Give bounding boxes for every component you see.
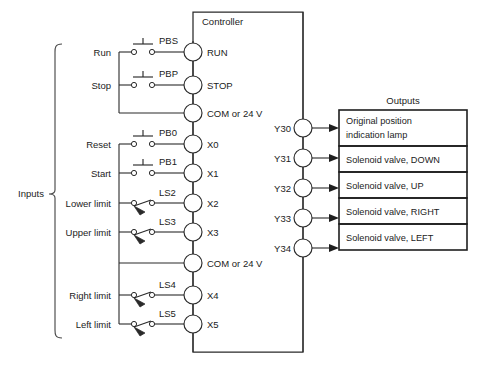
limit-switch-flag-ls3 [134,235,145,244]
input-row-right-limit: Right limit LS4 [69,279,184,307]
arrow-head-y34 [329,244,339,252]
switch-label-pbp: PBP [159,68,178,79]
input-row-upper-limit: Upper limit LS3 [66,216,184,244]
terminal-circle-com-lower[interactable] [184,254,202,272]
terminal-label-y32: Y32 [274,183,291,194]
terminal-circle-y34[interactable] [294,239,312,257]
limit-switch-flag-ls4 [134,298,145,307]
arrow-head-y31 [329,154,339,162]
diagram-canvas: Controller RUN STOP COM or 24 V X0 X1 X2… [0,0,482,374]
switch-label-pbs: PBS [159,35,178,46]
terminal-label-y34: Y34 [274,243,291,254]
switch-label-ls5: LS5 [159,308,176,319]
terminal-label-y31: Y31 [274,153,291,164]
controller-label: Controller [202,16,243,27]
terminal-circle-x5[interactable] [184,315,202,333]
terminal-circle-run[interactable] [184,43,202,61]
terminal-label-com-upper: COM or 24 V [207,108,263,119]
terminal-circle-x2[interactable] [184,194,202,212]
input-label-lower-limit: Lower limit [66,198,112,209]
switch-label-ls3: LS3 [159,216,176,227]
output-text-y30-line1: Original position [346,116,412,126]
terminal-label-run: RUN [207,47,228,58]
output-text-y32: Solenoid valve, UP [346,181,424,191]
terminal-circle-x0[interactable] [184,135,202,153]
terminal-circle-y30[interactable] [294,119,312,137]
switch-label-pb1: PB1 [159,156,177,167]
outputs-label: Outputs [386,95,420,106]
input-row-lower-limit: Lower limit LS2 [66,187,184,215]
terminal-circle-x3[interactable] [184,223,202,241]
terminal-circle-y33[interactable] [294,209,312,227]
terminal-label-y33: Y33 [274,213,291,224]
input-label-start: Start [91,168,111,179]
limit-switch-flag-ls5 [134,327,145,336]
input-label-reset: Reset [86,139,111,150]
output-text-y33: Solenoid valve, RIGHT [346,207,440,217]
switch-label-ls2: LS2 [159,187,176,198]
input-row-start: Start PB1 [91,156,184,179]
terminal-label-y30: Y30 [274,123,291,134]
terminal-circle-stop[interactable] [184,76,202,94]
terminal-label-x3: X3 [207,227,219,238]
terminal-label-x5: X5 [207,319,219,330]
arrow-head-y33 [329,214,339,222]
terminal-circle-y31[interactable] [294,149,312,167]
switch-label-pb0: PB0 [159,127,177,138]
input-row-reset: Reset PB0 [86,127,184,150]
terminal-label-stop: STOP [207,80,233,91]
input-label-stop: Stop [91,80,111,91]
terminal-circle-y32[interactable] [294,179,312,197]
terminal-label-x4: X4 [207,290,219,301]
terminal-circle-x4[interactable] [184,286,202,304]
terminal-label-com-lower: COM or 24 V [207,258,263,269]
input-label-left-limit: Left limit [76,319,112,330]
inputs-bracket [49,44,62,338]
input-row-run: Run PBS [94,35,184,58]
output-text-y30-line2: indication lamp [346,130,407,140]
controller-box [193,12,303,352]
arrow-head-y30 [329,124,339,132]
input-terminals: RUN STOP COM or 24 V X0 X1 X2 X3 COM or … [184,43,263,333]
wiring-diagram: Controller RUN STOP COM or 24 V X0 X1 X2… [0,0,482,374]
input-row-left-limit: Left limit LS5 [76,308,184,336]
switch-label-ls4: LS4 [159,279,176,290]
terminal-label-x2: X2 [207,198,219,209]
terminal-circle-x1[interactable] [184,164,202,182]
input-label-upper-limit: Upper limit [66,227,112,238]
terminal-label-x1: X1 [207,168,219,179]
arrow-head-y32 [329,184,339,192]
output-text-y34: Solenoid valve, LEFT [346,233,434,243]
limit-switch-flag-ls2 [134,206,145,215]
terminal-label-x0: X0 [207,139,219,150]
inputs-bracket-label: Inputs [18,188,44,199]
input-label-right-limit: Right limit [69,290,111,301]
input-row-stop: Stop PBP [91,68,184,91]
terminal-circle-com-upper[interactable] [184,104,202,122]
output-text-y31: Solenoid valve, DOWN [346,155,440,165]
input-label-run: Run [94,47,111,58]
